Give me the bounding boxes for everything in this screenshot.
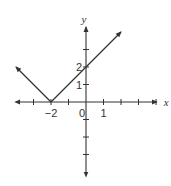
y-axis-label: y — [81, 13, 87, 25]
graph: −20121xy — [0, 0, 171, 186]
y-tick-label: 1 — [76, 79, 82, 91]
x-tick-label: 0 — [79, 107, 85, 119]
x-tick-label: 1 — [100, 107, 106, 119]
series-left-branch — [16, 67, 51, 102]
y-tick-label: 2 — [76, 61, 82, 73]
x-axis-label: x — [163, 96, 169, 108]
x-tick-label: −2 — [45, 107, 58, 119]
